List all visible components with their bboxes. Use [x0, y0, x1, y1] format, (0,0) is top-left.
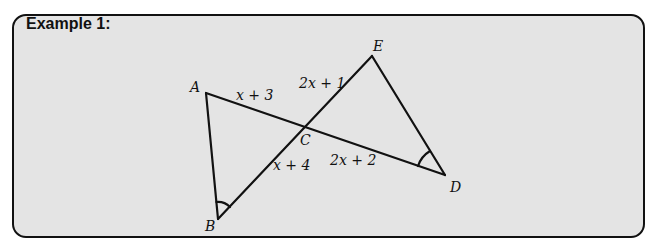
vertex-label-D: D — [449, 179, 461, 195]
edge-label: 2x + 1 — [298, 75, 345, 91]
edge-label: 2x + 2 — [329, 152, 376, 168]
angle-mark-D — [418, 151, 430, 166]
edge-label: x + 3 — [236, 87, 274, 103]
vertex-label-A: A — [188, 79, 200, 95]
triangle-diagram: ABCDE x + 32x + 1x + 42x + 2 — [0, 0, 656, 246]
vertex-label-C: C — [300, 132, 311, 148]
angle-mark-B — [216, 202, 230, 207]
segment-AB — [206, 93, 218, 219]
edge-label: x + 4 — [273, 157, 310, 173]
vertex-label-E: E — [372, 38, 383, 54]
segment-ED — [372, 56, 445, 175]
segment-BE — [218, 56, 372, 219]
vertex-label-B: B — [204, 218, 215, 234]
